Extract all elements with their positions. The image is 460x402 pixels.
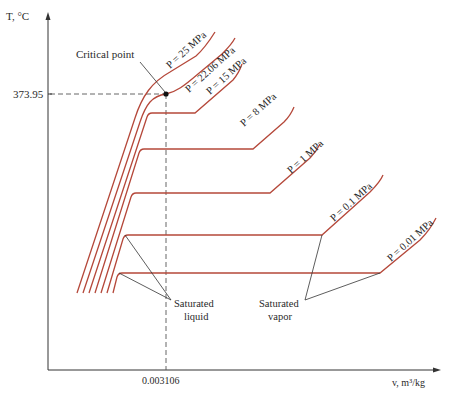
saturated-liquid-label-line2: liquid: [184, 311, 209, 322]
tv-diagram: T, °C v, m³/kg 373.95 0.003106 P = 25 MP…: [0, 0, 460, 402]
isobar-labels: P = 25 MPa P = 22.06 MPa P = 15 MPa P = …: [164, 29, 435, 264]
x-axis-label: v, m³/kg: [392, 377, 425, 388]
sat-liquid-leader-2: [119, 273, 171, 300]
y-axis-arrow-icon: [46, 12, 51, 20]
isobar-25mpa: [77, 32, 215, 293]
critical-point: Critical point: [76, 48, 169, 97]
isobar-label-0-1mpa: P = 0.1 MPa: [328, 180, 374, 223]
axes: T, °C v, m³/kg: [6, 10, 441, 388]
y-axis-label: T, °C: [6, 10, 29, 22]
critical-point-label: Critical point: [76, 48, 134, 60]
isobars: [77, 32, 436, 293]
critical-temperature-label: 373.95: [13, 88, 44, 100]
x-axis-arrow-icon: [433, 368, 441, 373]
sat-vapor-leader-1: [305, 235, 322, 300]
sat-vapor-leader-2: [305, 273, 380, 300]
critical-point-dot: [163, 91, 168, 96]
saturated-liquid-label-line1: Saturated: [174, 298, 214, 309]
sat-liquid-leader-1: [125, 235, 171, 300]
critical-volume-label: 0.003106: [142, 375, 180, 386]
isobar-label-1mpa: P = 1 MPa: [285, 137, 326, 175]
saturated-vapor-label-line2: vapor: [268, 311, 292, 322]
isobar-label-0-01mpa: P = 0.01 MPa: [385, 217, 435, 264]
isobar-8mpa: [95, 107, 294, 293]
saturated-vapor-label-line1: Saturated: [259, 298, 299, 309]
saturation-annotations: Saturated liquid Saturated vapor: [119, 235, 380, 322]
critical-reference-lines: 373.95 0.003106: [13, 88, 180, 386]
isobar-22-06mpa: [83, 38, 235, 293]
isobar-label-8mpa: P = 8 MPa: [238, 90, 279, 128]
